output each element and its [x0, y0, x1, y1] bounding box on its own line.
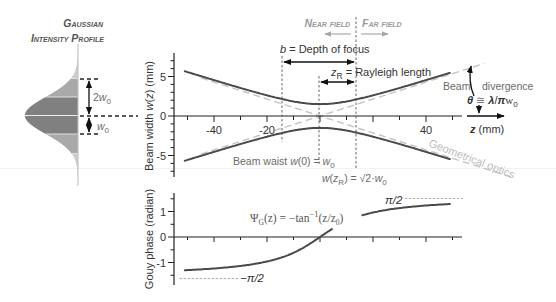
beam-width-ylabel: Beam width w(z) (mm) [143, 61, 155, 171]
div-w: w [505, 94, 513, 106]
field-labels: Near field Far field [305, 17, 402, 34]
x-tick-label: -40 [206, 124, 222, 136]
neg-pi-half-label: −π/2 [240, 272, 265, 284]
x-tick-label: 40 [420, 124, 432, 136]
waist-sub: 0 [330, 161, 335, 170]
y-tick-label: -5 [156, 150, 166, 162]
divergence-formula: θ ≅ λ/πw0 [467, 94, 518, 109]
formula-arg: (z/z [319, 212, 336, 225]
formula-close: ) [340, 212, 344, 225]
gaussian-beam-figure: Gaussian Intensity Profile 2w0 w0 Near f… [0, 0, 556, 302]
label-w0: w0 [97, 120, 110, 135]
wzr-mid: ) = √2· [344, 172, 375, 184]
y-tick-label: 1 [160, 206, 166, 218]
profile-title-line1: Gaussian [63, 17, 104, 29]
label-2w0-sub: 0 [106, 97, 111, 106]
formula-rest: (z) = −tan [264, 212, 310, 225]
y-tick-label: 0 [160, 231, 166, 243]
beam-word: Beam [443, 80, 471, 92]
div-lambda: λ [487, 94, 494, 106]
gaussian-profile: Gaussian Intensity Profile 2w0 w0 [20, 17, 138, 189]
x-tick-label: -20 [259, 124, 275, 136]
ylabel-suffix: ) (mm) [143, 61, 155, 93]
gaussian-bands [20, 44, 80, 189]
y-tick-label: -1 [156, 257, 166, 269]
waist-mid: (0) = [298, 155, 323, 167]
y-tick-label: 5 [160, 71, 166, 83]
z-axis-label: z (mm) [469, 123, 504, 135]
formula-sup: −1 [309, 209, 318, 219]
divergence-angle-arrow [470, 66, 474, 96]
gouy-phase-panel: Gouy phase (radian) 10-1 ΨG(z) = −tan−1(… [143, 189, 463, 289]
depth-of-focus-label: b = Depth of focus [280, 43, 370, 55]
y-tick-label: 0 [160, 110, 166, 122]
pi-half-label: π/2 [385, 194, 403, 206]
rayleigh-length-label: zR = Rayleigh length [330, 66, 431, 81]
gouy-formula: ΨG(z) = −tan−1(z/z0) [250, 209, 344, 227]
near-field-label: Near field [305, 17, 351, 29]
gouy-ylabel: Gouy phase (radian) [143, 189, 155, 289]
divergence-word: divergence [482, 80, 534, 92]
label-2w0: 2w0 [93, 91, 111, 106]
profile-title-line2: Intensity Profile [31, 32, 104, 44]
label-w0-sub: 0 [105, 126, 110, 135]
dof-text: = Depth of focus [286, 43, 370, 55]
rayleigh-text: = Rayleigh length [343, 66, 431, 78]
div-approx: ≅ [473, 94, 488, 106]
beam-waist-label: Beam waist w(0) = w0 [233, 155, 335, 170]
far-field-label: Far field [362, 17, 402, 29]
beam-width-panel: Beam width w(z) (mm) -40-204050-5 b = De… [143, 17, 534, 187]
waist-prefix: Beam waist [233, 155, 290, 167]
z-axis-suffix: (mm) [476, 123, 505, 135]
div-pi: π [497, 94, 505, 106]
wzr-sub2: 0 [382, 178, 387, 187]
ylabel-prefix: Beam width [143, 110, 155, 171]
div-sub: 0 [513, 100, 518, 109]
w-at-rayleigh-label: w(zR) = √2·w0 [322, 172, 387, 187]
geometrical-optics-label: Geometrical optics [427, 137, 517, 181]
